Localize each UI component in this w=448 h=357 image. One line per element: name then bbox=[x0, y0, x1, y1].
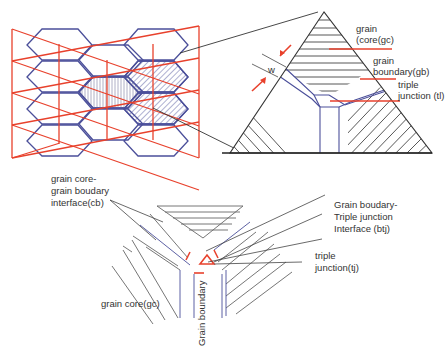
gb-bottom-label: Grain boundary bbox=[196, 280, 207, 346]
grain-structure-diagram: w grain (core(gc) grain boundary(gb) tri… bbox=[0, 0, 448, 357]
gb-label-line2: boundary(gb) bbox=[373, 66, 430, 77]
callout-line-top bbox=[180, 12, 318, 53]
btj-label-line3: Interface (btj) bbox=[334, 223, 390, 234]
gc-bottom-label: grain core(gc) bbox=[101, 298, 160, 309]
gc-label-line1: grain bbox=[356, 23, 377, 34]
gb-label-line1: grain bbox=[373, 55, 394, 66]
btj-label-line2: Triple junction bbox=[334, 211, 393, 222]
cb-label-line3: interface(cb) bbox=[51, 197, 104, 208]
cb-label-line2: grain boudary bbox=[51, 185, 109, 196]
tj-bottom-label-line1: triple bbox=[315, 250, 336, 261]
gc-label-line2: (core(gc) bbox=[356, 34, 394, 45]
tj-label-line2: junction (tl) bbox=[397, 90, 444, 101]
bottom-labels: grain core- grain boudary interface(cb) … bbox=[51, 173, 397, 346]
btj-label-line1: Grain boudary- bbox=[334, 199, 397, 210]
triple-junction-marker bbox=[186, 250, 218, 273]
tj-bottom-label-line2: junction(tj) bbox=[314, 262, 359, 273]
cb-label-line1: grain core- bbox=[51, 173, 96, 184]
w-label: w bbox=[267, 64, 275, 75]
tj-label-line1: triple bbox=[398, 79, 419, 90]
bottom-leader-lines bbox=[110, 195, 325, 264]
